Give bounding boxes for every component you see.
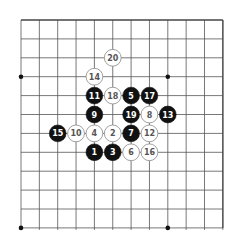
move-number: 6 xyxy=(128,148,134,157)
move-number: 8 xyxy=(147,111,153,120)
stone-white-4[interactable]: 4 xyxy=(86,125,103,142)
star-point xyxy=(166,74,171,79)
move-number: 17 xyxy=(144,92,155,101)
stone-black-11[interactable]: 11 xyxy=(86,87,103,104)
go-board[interactable]: 1234567891011121314151617181920 xyxy=(0,0,237,245)
stone-black-5[interactable]: 5 xyxy=(123,87,140,104)
stone-white-10[interactable]: 10 xyxy=(68,125,85,142)
move-number: 13 xyxy=(162,111,173,120)
move-number: 10 xyxy=(70,129,82,138)
stone-black-17[interactable]: 17 xyxy=(141,87,158,104)
move-number: 16 xyxy=(144,148,156,157)
move-number: 9 xyxy=(92,111,98,120)
move-number: 1 xyxy=(92,148,98,157)
move-number: 7 xyxy=(128,129,134,138)
move-number: 2 xyxy=(110,129,116,138)
stone-black-3[interactable]: 3 xyxy=(104,144,121,161)
stone-white-16[interactable]: 16 xyxy=(141,144,158,161)
move-number: 3 xyxy=(110,148,116,157)
star-point xyxy=(166,226,171,231)
stone-black-13[interactable]: 13 xyxy=(159,106,176,123)
star-point xyxy=(19,226,24,231)
stone-black-1[interactable]: 1 xyxy=(86,144,103,161)
stone-white-18[interactable]: 18 xyxy=(104,87,121,104)
move-number: 4 xyxy=(92,129,98,138)
move-number: 20 xyxy=(107,54,119,63)
move-number: 15 xyxy=(52,129,64,138)
stone-black-7[interactable]: 7 xyxy=(123,125,140,142)
star-point xyxy=(19,74,24,79)
stone-white-2[interactable]: 2 xyxy=(104,125,121,142)
stone-white-14[interactable]: 14 xyxy=(86,68,103,85)
stone-black-9[interactable]: 9 xyxy=(86,106,103,123)
move-number: 12 xyxy=(144,129,155,138)
move-number: 11 xyxy=(89,92,101,101)
stone-white-8[interactable]: 8 xyxy=(141,106,158,123)
stone-black-15[interactable]: 15 xyxy=(49,125,66,142)
stone-white-6[interactable]: 6 xyxy=(123,144,140,161)
board-grid xyxy=(21,20,223,230)
stone-black-19[interactable]: 19 xyxy=(123,106,140,123)
move-number: 14 xyxy=(89,73,101,82)
move-number: 18 xyxy=(107,92,119,101)
move-number: 19 xyxy=(126,111,138,120)
stone-white-12[interactable]: 12 xyxy=(141,125,158,142)
move-number: 5 xyxy=(128,92,134,101)
stone-white-20[interactable]: 20 xyxy=(104,49,121,66)
